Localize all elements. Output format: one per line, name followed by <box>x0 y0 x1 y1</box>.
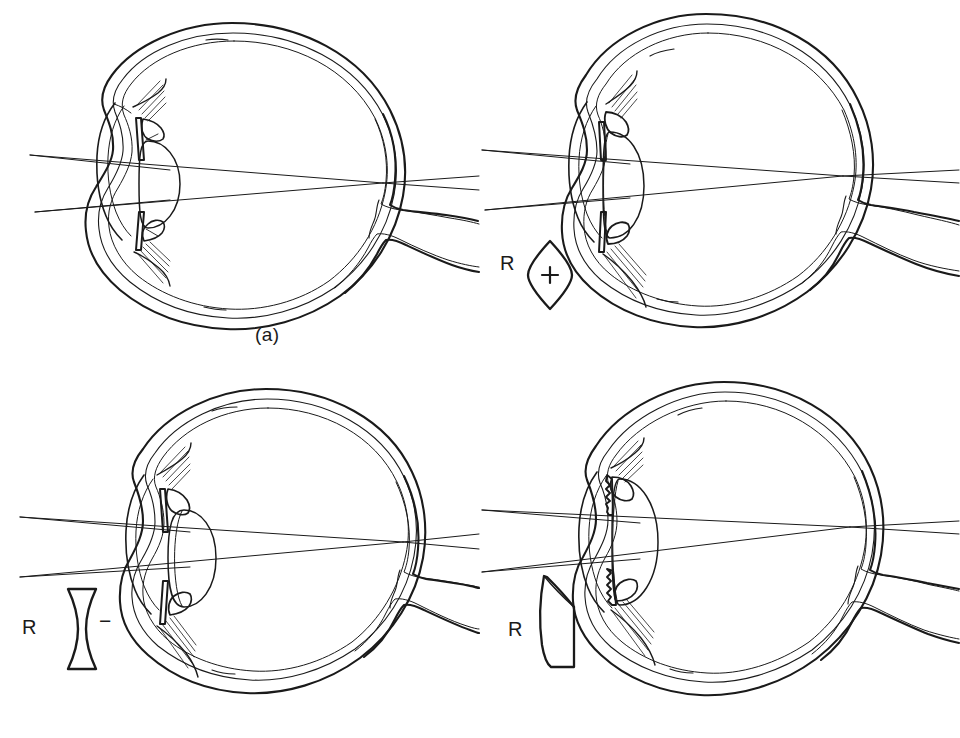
cylinder-lens-icon <box>533 571 587 675</box>
ciliary-hatching-upper <box>160 447 190 489</box>
rx-label-b: R <box>500 252 514 275</box>
ray-lower-incident <box>485 176 843 210</box>
optic-nerve-lower-outer <box>345 240 479 293</box>
iris-lower <box>160 581 168 624</box>
eye-diagram-c <box>0 369 480 738</box>
optic-disc-wave <box>836 196 846 234</box>
sclera-outline <box>85 23 405 329</box>
minus-sign-label: − <box>99 609 111 633</box>
ciliary-hatching-upper <box>613 441 643 482</box>
ray-upper-exit <box>403 534 479 542</box>
ciliary-process-lower <box>143 220 165 241</box>
ray-upper-incident <box>482 150 843 176</box>
lens-posterior-curve <box>175 511 183 606</box>
ray-upper-exit <box>843 170 959 176</box>
ray-lower-incident <box>20 542 403 577</box>
ciliary-body-lower <box>157 626 198 677</box>
ray-upper-incident <box>20 517 403 542</box>
retina-outline <box>108 41 387 309</box>
optic-nerve-sheath-inner <box>842 110 959 225</box>
ray-lower-incident <box>482 527 850 572</box>
optic-nerve-sheath-outer <box>404 476 479 588</box>
ray-lower-chord <box>20 567 190 577</box>
convex-lens-icon <box>522 238 578 316</box>
ray-upper-incident <box>30 155 383 183</box>
rx-label-c: R <box>22 616 36 639</box>
panel-c: (c) <box>0 369 480 738</box>
ora-serrata-mark-lower <box>212 670 235 674</box>
ray-lower-exit <box>383 183 479 190</box>
crystalline-lens <box>139 141 180 228</box>
crystalline-lens <box>168 510 216 607</box>
ciliary-hatching-lower <box>604 244 646 298</box>
ray-upper-incident <box>482 510 850 527</box>
ciliary-process-upper <box>167 489 190 515</box>
ray-upper-chord <box>30 155 170 170</box>
ray-upper-chord <box>482 150 630 164</box>
eye-diagram-a <box>0 0 480 369</box>
ciliary-process-lower <box>615 579 638 601</box>
sclera-outline <box>562 14 873 327</box>
eye-diagram-d <box>480 369 960 738</box>
panel-caption-a: (a) <box>255 324 279 346</box>
ray-lower-exit <box>403 542 479 549</box>
ray-lower-chord <box>35 200 170 212</box>
optic-disc-wave <box>390 570 400 608</box>
choroid-outline <box>98 33 396 318</box>
concave-lens-icon <box>60 586 104 676</box>
ray-lower-chord <box>485 198 630 210</box>
optic-nerve-lower-inner <box>812 602 959 654</box>
zonule-upper <box>146 134 158 140</box>
panel-a: (a) <box>0 0 480 369</box>
crystalline-lens <box>612 479 658 605</box>
choroid-outline <box>574 24 864 315</box>
figure-refractive-states: (a) <box>0 0 960 738</box>
sclera-outline <box>120 389 425 693</box>
ora-serrata-mark-lower <box>657 299 678 302</box>
sclera-outline <box>573 382 883 695</box>
ora-serrata-mark <box>206 39 228 40</box>
ciliary-body-upper <box>133 79 166 107</box>
ray-upper-exit <box>383 176 479 183</box>
ray-lower-exit <box>843 176 959 183</box>
panel-d: (d) <box>480 369 960 738</box>
rx-label-d: R <box>508 618 522 641</box>
optic-nerve-lower-inner <box>335 234 479 288</box>
choroid-outline <box>585 392 874 682</box>
ray-upper-chord <box>20 517 190 532</box>
zonule-lower <box>146 229 158 236</box>
ciliary-hatching-upper <box>136 81 166 121</box>
ora-serrata-mark <box>650 49 674 56</box>
ora-serrata-mark <box>212 407 237 411</box>
ciliary-hatching-upper <box>609 75 637 118</box>
ciliary-process-upper <box>142 119 164 141</box>
optic-nerve-lower-outer <box>364 605 479 657</box>
